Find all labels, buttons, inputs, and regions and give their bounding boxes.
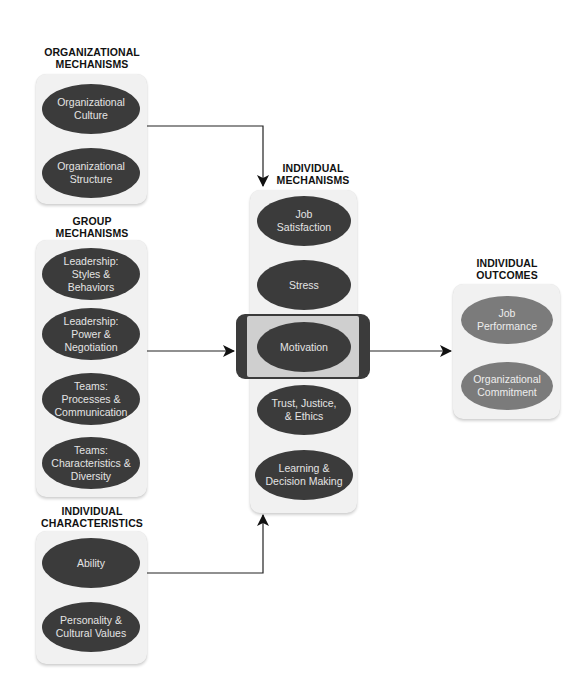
node-learning-decision-making[interactable]: Learning & Decision Making [255,450,353,500]
organizational-mechanisms-heading: ORGANIZATIONAL MECHANISMS [30,46,154,70]
group-mechanisms-heading: GROUP MECHANISMS [30,215,154,239]
node-teams-processes-communication[interactable]: Teams: Processes & Communication [42,373,140,425]
node-personality-cultural-values[interactable]: Personality & Cultural Values [42,602,140,652]
node-trust-justice-ethics[interactable]: Trust, Justice, & Ethics [257,385,351,435]
node-leadership-styles-behaviors[interactable]: Leadership: Styles & Behaviors [42,248,140,300]
node-organizational-culture[interactable]: Organizational Culture [42,84,140,134]
node-job-performance[interactable]: Job Performance [461,296,553,344]
individual-characteristics-heading: INDIVIDUAL CHARACTERISTICS [30,505,154,529]
node-organizational-structure[interactable]: Organizational Structure [42,148,140,198]
node-leadership-power-negotiation[interactable]: Leadership: Power & Negotiation [42,308,140,360]
node-motivation[interactable]: Motivation [257,322,351,372]
edge-characteristics-to-individual-mechanisms [147,515,263,573]
node-organizational-commitment[interactable]: Organizational Commitment [461,362,553,410]
edge-organizational-to-individual-mechanisms [147,126,263,186]
node-ability[interactable]: Ability [42,538,140,588]
node-teams-characteristics-diversity[interactable]: Teams: Characteristics & Diversity [42,437,140,489]
node-stress[interactable]: Stress [257,260,351,310]
individual-outcomes-heading: INDIVIDUAL OUTCOMES [462,257,552,281]
individual-mechanisms-heading: INDIVIDUAL MECHANISMS [268,162,358,186]
node-job-satisfaction[interactable]: Job Satisfaction [257,196,351,246]
